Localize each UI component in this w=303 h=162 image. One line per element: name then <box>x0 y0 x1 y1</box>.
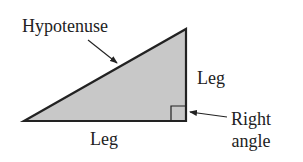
triangle-shape <box>24 29 186 121</box>
hypotenuse-arrow <box>88 40 117 63</box>
hypotenuse-label: Hypotenuse <box>22 17 108 35</box>
horizontal-leg-label: Leg <box>90 130 118 148</box>
right-triangle-diagram: Hypotenuse Leg Leg Right angle <box>0 0 303 162</box>
right-angle-label: Right angle <box>231 108 271 152</box>
right-angle-label-line2: angle <box>231 130 271 152</box>
right-angle-label-line1: Right <box>231 108 271 130</box>
vertical-leg-label: Leg <box>197 69 225 87</box>
right-angle-arrow <box>190 112 227 117</box>
